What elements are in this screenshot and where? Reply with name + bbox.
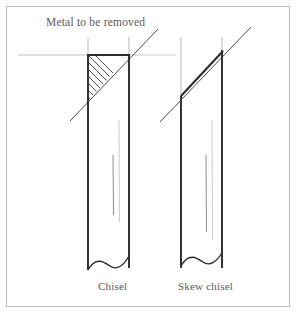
tool-chisel bbox=[70, 29, 158, 270]
chisel-shading-line-inner bbox=[113, 155, 114, 215]
skew-chisel-shading-line-outer bbox=[212, 120, 213, 240]
chisel-shading-line-outer bbox=[119, 120, 120, 222]
skew-chisel-break-line bbox=[181, 253, 222, 266]
chisel-grind-guide-line bbox=[70, 29, 158, 121]
metal-to-be-removed-label: Metal to be removed bbox=[46, 16, 145, 28]
tool-skew-chisel bbox=[160, 27, 251, 268]
skew-chisel-bevel-edge bbox=[181, 51, 223, 96]
caption-skew-chisel: Skew chisel bbox=[178, 280, 233, 292]
figure-container: Metal to be removed Chisel Skew chisel bbox=[0, 0, 298, 315]
skew-chisel-grind-guide-line bbox=[160, 27, 251, 122]
diagram-canvas bbox=[0, 0, 298, 315]
caption-chisel: Chisel bbox=[98, 280, 127, 292]
chisel-break-line bbox=[88, 256, 129, 270]
chisel-waste-hatching bbox=[74, 34, 151, 111]
skew-chisel-shading-line-inner bbox=[206, 155, 207, 232]
